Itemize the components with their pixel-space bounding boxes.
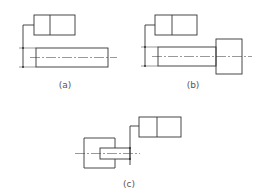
feature-control-frame (34, 15, 75, 35)
caption-c: (c) (123, 179, 135, 189)
caption-b: (b) (187, 80, 200, 90)
panel-a (19, 15, 117, 67)
feature-control-frame (139, 117, 181, 137)
leader-line (145, 25, 155, 66)
diagram-canvas (0, 0, 259, 195)
leader-line (130, 126, 139, 165)
caption-a: (a) (59, 80, 72, 90)
panel-c (75, 117, 181, 168)
leader-line (23, 25, 34, 67)
feature-control-frame (155, 15, 197, 35)
housing (84, 138, 115, 168)
panel-b (141, 15, 252, 74)
